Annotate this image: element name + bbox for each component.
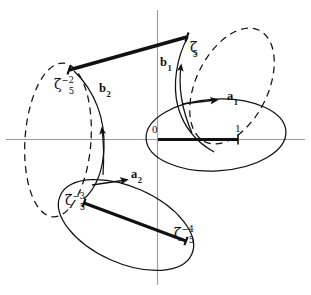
riemann-surface-homology-figure: ζ5 ζ−25 ζ−35 ζ−45 a1 a2 b1 b2 0 1 xyxy=(0,0,311,295)
zeta-5-inv2-superscript: −2 xyxy=(62,75,74,85)
a2-base: a xyxy=(131,167,137,181)
b2-subscript: 2 xyxy=(106,89,110,99)
b1-subscript: 1 xyxy=(167,63,171,73)
label-unit: 1 xyxy=(235,123,241,134)
zeta-5-subscript: 5 xyxy=(193,49,198,59)
coordinate-axes xyxy=(6,10,305,285)
zeta-5-inv2-subscript: 5 xyxy=(69,86,74,96)
label-zeta-5: ζ5 xyxy=(190,40,203,57)
zeta-5-inv4-base: ζ xyxy=(174,225,182,241)
label-a2-cycle: a2 xyxy=(131,168,142,183)
b1-dashed-ellipse xyxy=(172,14,291,157)
label-origin: 0 xyxy=(152,124,158,135)
label-zeta-5-inv2: ζ−25 xyxy=(54,77,79,94)
zeta-5-inv4-superscript: −4 xyxy=(182,224,194,234)
zeta-5-inv4-subscript: 5 xyxy=(189,235,194,245)
a2-subscript: 2 xyxy=(138,175,142,185)
label-zeta-5-inv3: ζ−35 xyxy=(65,193,90,210)
a1-subscript: 1 xyxy=(234,97,238,107)
b2-base: b xyxy=(99,81,106,95)
label-zeta-5-inv4: ζ−45 xyxy=(174,226,199,243)
label-a1-cycle: a1 xyxy=(227,90,238,105)
diagram-canvas xyxy=(0,0,311,295)
zeta-5-inv2-base: ζ xyxy=(54,76,62,92)
a1-cycle-ellipse xyxy=(144,95,288,174)
b1-base: b xyxy=(160,55,167,69)
label-b1-cycle: b1 xyxy=(160,56,171,71)
a1-base: a xyxy=(227,89,233,103)
zeta-5-inv3-base: ζ xyxy=(65,192,73,208)
branch-cut-lower xyxy=(83,199,188,245)
label-b2-cycle: b2 xyxy=(99,82,110,97)
zeta-5-inv3-superscript: −3 xyxy=(73,191,85,201)
zeta-5-inv3-subscript: 5 xyxy=(80,202,85,212)
